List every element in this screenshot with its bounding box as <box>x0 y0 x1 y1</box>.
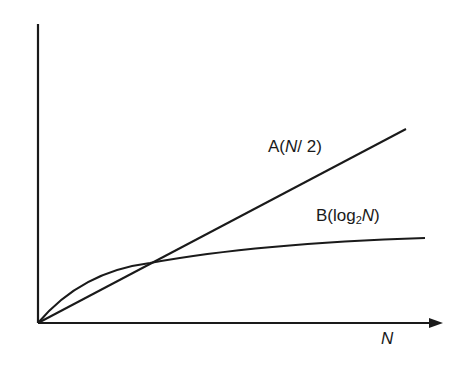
series-b-label-prefix: B(log <box>316 206 356 225</box>
x-axis-arrow-icon <box>429 318 443 328</box>
series-b-label: B(log2N) <box>316 207 380 224</box>
chart-canvas <box>0 0 468 369</box>
series-b-curve <box>38 238 425 323</box>
series-b-label-suffix: ) <box>374 206 380 225</box>
x-axis-label: N <box>381 330 393 347</box>
series-a-label: A(N/ 2) <box>268 138 322 155</box>
series-b-label-var: N <box>362 206 374 225</box>
series-a-line <box>38 129 406 323</box>
series-a-label-suffix: / 2) <box>297 137 322 156</box>
series-a-label-var: N <box>285 137 297 156</box>
series-a-label-prefix: A( <box>268 137 285 156</box>
